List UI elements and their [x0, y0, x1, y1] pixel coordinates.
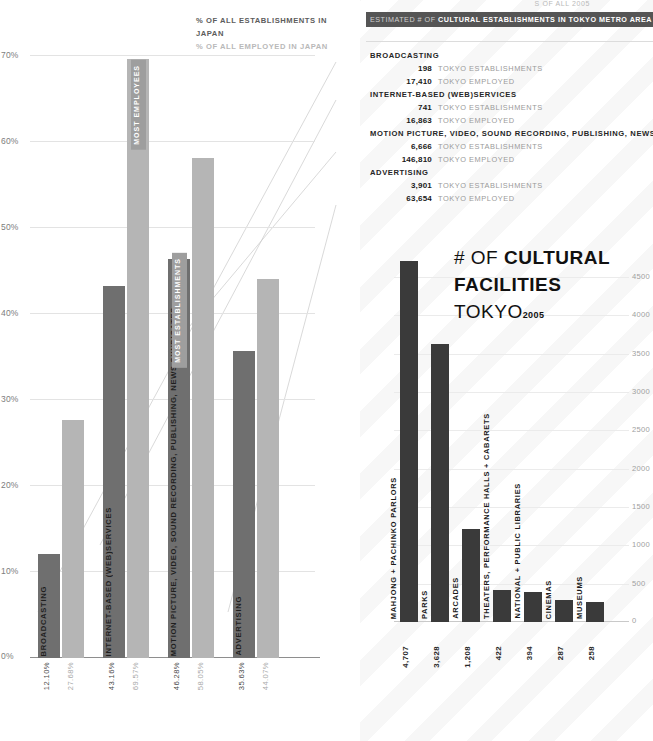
bar-label-advertising: ADVERTISING — [234, 596, 243, 656]
value-employed-motion-picture: 58.05% — [196, 662, 205, 690]
stats-label-establishments: TOKYO ESTABLISHMENTS — [438, 64, 543, 73]
r-bar-label-parks: PARKS — [420, 590, 429, 619]
ytick-10: 10% — [1, 566, 27, 576]
stats-row-advertising-establishments: 3,901 TOKYO ESTABLISHMENTS — [366, 181, 653, 190]
stats-label-establishments-3: TOKYO ESTABLISHMENTS — [438, 142, 543, 151]
r-gridline-1500 — [394, 507, 629, 508]
r-bar-value-museums: 258 — [587, 646, 596, 660]
stats-block-motion-picture: MOTION PICTURE, VIDEO, SOUND RECORDING, … — [366, 129, 653, 164]
badge-most-employees: MOST EMPLOYEES — [131, 60, 146, 150]
r-bar-label-arcades: ARCADES — [451, 577, 460, 619]
japan-industry-share-chart: % OF ALL ESTABLISHMENTS IN JAPAN % OF AL… — [0, 0, 340, 741]
stats-category-internet-services: INTERNET-BASED (WEB)SERVICES — [370, 90, 653, 99]
r-bar-value-theaters: 422 — [494, 646, 503, 660]
stats-category-advertising: ADVERTISING — [370, 168, 653, 177]
r-bar-label-mahjong-pachinko: MAHJONG + PACHINKO PARLORS — [389, 477, 398, 619]
r-gridline-1000 — [394, 545, 629, 546]
right-chart-title-line3: TOKYO2005 — [454, 298, 604, 329]
stats-category-broadcasting: BROADCASTING — [370, 51, 653, 60]
r-bar-value-cinemas: 287 — [556, 646, 565, 660]
value-establishments-motion-picture: 46.28% — [172, 662, 181, 690]
ytick-50: 50% — [1, 222, 27, 232]
r-bar-label-museums: MUSEUMS — [575, 576, 584, 619]
stats-panel-header: ESTIMATED # OF CULTURAL ESTABLISHMENTS I… — [366, 12, 653, 27]
tokyo-cultural-facilities-chart: # OF CULTURAL FACILITIES TOKYO2005 4500 … — [366, 236, 653, 741]
stats-label-employed: TOKYO EMPLOYED — [438, 77, 515, 86]
stats-row-advertising-employed: 63,654 TOKYO EMPLOYED — [366, 194, 653, 203]
title-prefix: # OF — [454, 247, 504, 268]
gridline-50 — [30, 227, 315, 228]
stats-value-internet-services-establishments: 741 — [366, 103, 432, 112]
r-bar-parks[interactable] — [431, 344, 449, 622]
r-bar-mahjong-pachinko[interactable] — [400, 261, 418, 622]
stats-row-internet-services-establishments: 741 TOKYO ESTABLISHMENTS — [366, 103, 653, 112]
bar-employed-motion-picture[interactable] — [192, 158, 214, 658]
value-establishments-advertising: 35.63% — [237, 662, 246, 690]
value-employed-broadcasting: 27.68% — [66, 662, 75, 690]
stats-value-broadcasting-establishments: 198 — [366, 64, 432, 73]
left-chart-plot-area: 70% 60% 50% 40% 30% 20% 10% 0% BROADCAST… — [30, 38, 315, 658]
stats-value-advertising-employed: 63,654 — [366, 194, 432, 203]
ytick-20: 20% — [1, 480, 27, 490]
right-chart-title-line1: # OF CULTURAL — [454, 244, 604, 271]
stats-value-broadcasting-employed: 17,410 — [366, 77, 432, 86]
ytick-40: 40% — [1, 308, 27, 318]
stats-value-internet-services-employed: 16,863 — [366, 116, 432, 125]
stats-label-establishments-4: TOKYO ESTABLISHMENTS — [438, 181, 543, 190]
gridline-70 — [30, 55, 315, 56]
stats-row-motion-picture-establishments: 6,666 TOKYO ESTABLISHMENTS — [366, 142, 653, 151]
clipped-top-text: S OF ALL 2005 — [470, 0, 590, 7]
stats-label-employed-2: TOKYO EMPLOYED — [438, 116, 515, 125]
r-ytick-1000: 1000 — [632, 540, 650, 549]
right-chart-title: # OF CULTURAL FACILITIES TOKYO2005 — [454, 244, 604, 329]
r-ytick-500: 500 — [632, 579, 646, 588]
bar-label-internet-services: INTERNET-BASED (WEB)SERVICES — [104, 507, 113, 656]
tokyo-cultural-establishments-panel: ESTIMATED # OF CULTURAL ESTABLISHMENTS I… — [366, 12, 653, 207]
title-cultural: CULTURAL — [504, 247, 610, 268]
stats-label-establishments-2: TOKYO ESTABLISHMENTS — [438, 103, 543, 112]
r-gridline-3500 — [394, 354, 629, 355]
stats-row-internet-services-employed: 16,863 TOKYO EMPLOYED — [366, 116, 653, 125]
stats-value-motion-picture-employed: 146,810 — [366, 155, 432, 164]
stats-value-advertising-establishments: 3,901 — [366, 181, 432, 190]
r-bar-value-arcades: 1,208 — [463, 646, 472, 668]
r-bar-museums[interactable] — [586, 602, 604, 622]
r-gridline-500 — [394, 584, 629, 585]
r-bar-label-theaters: THEATERS, PERFORMANCE HALLS + CABARETS — [482, 413, 491, 619]
ytick-0: 0% — [1, 651, 27, 661]
r-bar-theaters[interactable] — [493, 590, 511, 622]
stats-row-broadcasting-establishments: 198 TOKYO ESTABLISHMENTS — [366, 64, 653, 73]
stats-panel-body: BROADCASTING 198 TOKYO ESTABLISHMENTS 17… — [366, 42, 653, 203]
legend-item-establishments: % OF ALL ESTABLISHMENTS IN JAPAN — [196, 14, 340, 40]
title-year: 2005 — [523, 310, 545, 320]
stats-label-employed-4: TOKYO EMPLOYED — [438, 194, 515, 203]
stats-label-employed-3: TOKYO EMPLOYED — [438, 155, 515, 164]
stats-header-prefix: ESTIMATED # OF — [370, 15, 438, 24]
value-establishments-broadcasting: 12.10% — [42, 662, 51, 690]
r-gridline-3000 — [394, 392, 629, 393]
r-ytick-2000: 2000 — [632, 464, 650, 473]
title-facilities: FACILITIES — [454, 274, 561, 295]
r-ytick-3500: 3500 — [632, 349, 650, 358]
stats-row-motion-picture-employed: 146,810 TOKYO EMPLOYED — [366, 155, 653, 164]
r-bar-label-cinemas: CINEMAS — [544, 580, 553, 619]
r-ytick-3000: 3000 — [632, 387, 650, 396]
title-tokyo: TOKYO — [454, 301, 523, 322]
r-ytick-2500: 2500 — [632, 425, 650, 434]
gridline-60 — [30, 141, 315, 142]
stats-block-advertising: ADVERTISING 3,901 TOKYO ESTABLISHMENTS 6… — [366, 168, 653, 203]
r-bar-value-mahjong-pachinko: 4,707 — [401, 646, 410, 668]
r-ytick-0: 0 — [632, 616, 637, 625]
stats-category-motion-picture: MOTION PICTURE, VIDEO, SOUND RECORDING, … — [370, 129, 653, 138]
r-bar-cinemas[interactable] — [555, 600, 573, 622]
r-gridline-2500 — [394, 430, 629, 431]
bar-employed-broadcasting[interactable] — [62, 420, 84, 658]
stats-header-emphasis: CULTURAL ESTABLISHMENTS IN TOKYO METRO A… — [438, 15, 652, 24]
ytick-30: 30% — [1, 394, 27, 404]
r-bar-label-libraries: NATIONAL + PUBLIC LIBRARIES — [513, 483, 522, 619]
r-bar-value-libraries: 394 — [525, 646, 534, 660]
r-bar-arcades[interactable] — [462, 529, 480, 622]
bar-employed-advertising[interactable] — [257, 279, 279, 658]
r-gridline-2000 — [394, 469, 629, 470]
r-bar-libraries[interactable] — [524, 592, 542, 622]
